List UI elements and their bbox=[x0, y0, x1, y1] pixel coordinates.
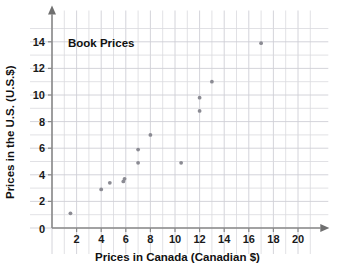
data-point bbox=[198, 96, 202, 100]
data-point bbox=[99, 188, 103, 192]
y-tick-label: 10 bbox=[33, 89, 45, 101]
x-axis-title: Prices in Canada (Canadian $) bbox=[95, 251, 260, 263]
x-tick-label: 6 bbox=[123, 233, 129, 245]
y-axis-title: Prices in the U.S. (U.S.$) bbox=[4, 65, 16, 199]
x-tick-label: 20 bbox=[292, 233, 304, 245]
data-point bbox=[108, 181, 112, 185]
x-tick-label: 16 bbox=[243, 233, 255, 245]
x-tick-label: 12 bbox=[193, 233, 205, 245]
chart-title: Book Prices bbox=[68, 37, 134, 49]
y-tick-label: 14 bbox=[33, 36, 46, 48]
scatter-chart: 2468101214161820 2468101214 0 Book Price… bbox=[0, 0, 346, 270]
x-tick-label: 8 bbox=[147, 233, 153, 245]
data-point bbox=[69, 211, 73, 215]
data-point bbox=[149, 133, 153, 137]
origin-tick-label: 0 bbox=[39, 223, 45, 235]
x-tick-label: 10 bbox=[169, 233, 181, 245]
data-point bbox=[210, 80, 214, 84]
data-point bbox=[198, 109, 202, 113]
data-point bbox=[259, 41, 263, 45]
x-tick-label: 2 bbox=[74, 233, 80, 245]
data-point bbox=[179, 161, 183, 165]
plot-canvas: 2468101214161820 2468101214 0 Book Price… bbox=[0, 0, 346, 270]
y-tick-label: 6 bbox=[39, 142, 45, 154]
x-tick-label: 4 bbox=[98, 233, 105, 245]
y-tick-label: 4 bbox=[39, 169, 46, 181]
y-tick-label: 12 bbox=[33, 62, 45, 74]
data-point bbox=[136, 148, 140, 152]
data-point bbox=[123, 177, 127, 181]
data-point bbox=[136, 161, 140, 165]
x-tick-label: 14 bbox=[218, 233, 231, 245]
y-tick-label: 8 bbox=[39, 116, 45, 128]
y-tick-label: 2 bbox=[39, 195, 45, 207]
x-tick-label: 18 bbox=[267, 233, 279, 245]
